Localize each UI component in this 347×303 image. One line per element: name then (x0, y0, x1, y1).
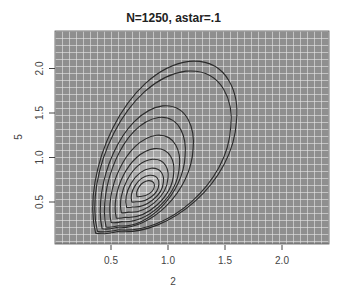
x-axis-label: 2 (170, 276, 176, 287)
y-tick-label: 0.5 (34, 195, 45, 209)
contour-chart: 0.51.01.52.0 0.51.01.52.0 2 5 (0, 0, 347, 303)
y-tick-label: 2.0 (34, 61, 45, 75)
y-tick-label: 1.5 (34, 106, 45, 120)
x-tick-label: 2.0 (275, 255, 289, 266)
x-tick-label: 1.5 (218, 255, 232, 266)
plot-area (55, 31, 329, 244)
x-axis: 0.51.01.52.0 (104, 245, 289, 266)
y-axis-label: 5 (13, 134, 24, 140)
x-tick-label: 0.5 (104, 255, 118, 266)
x-tick-label: 1.0 (161, 255, 175, 266)
y-tick-label: 1.0 (34, 150, 45, 164)
y-axis: 0.51.01.52.0 (34, 61, 55, 209)
